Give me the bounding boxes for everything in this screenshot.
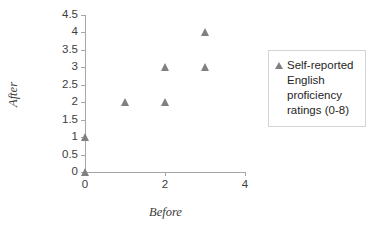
y-tick-label: 0.5 [46, 149, 78, 160]
y-tick-label: 4 [46, 26, 78, 37]
data-point-marker[interactable] [201, 28, 209, 36]
x-tick-label: 0 [70, 178, 100, 190]
data-point-marker[interactable] [121, 98, 129, 106]
y-tick-label: 2.5 [46, 79, 78, 90]
y-tick-label: 0 [46, 166, 78, 177]
plot-area [85, 15, 245, 172]
y-axis-title: After [6, 82, 21, 107]
x-tick-mark [245, 172, 246, 176]
data-point-marker[interactable] [161, 63, 169, 71]
data-point-marker[interactable] [201, 63, 209, 71]
x-axis-title: Before [85, 205, 246, 220]
y-tick-label: 3 [46, 61, 78, 72]
legend-item-label: Self-reported English proficiency rating… [287, 58, 359, 118]
y-tick-label: 1 [46, 131, 78, 142]
data-point-marker[interactable] [81, 133, 89, 141]
y-tick-label-group: 00.511.522.533.544.5 [44, 0, 78, 239]
scatter-chart: 00.511.522.533.544.5 024 After Before Se… [0, 0, 387, 239]
triangle-marker-icon [275, 62, 283, 69]
y-tick-label: 1.5 [46, 114, 78, 125]
x-tick-mark [165, 172, 166, 176]
data-point-marker[interactable] [81, 168, 89, 176]
y-tick-label: 2 [46, 96, 78, 107]
y-tick-label: 4.5 [46, 9, 78, 20]
legend-item[interactable]: Self-reported English proficiency rating… [275, 58, 359, 118]
x-tick-label: 4 [230, 178, 260, 190]
data-point-marker[interactable] [161, 98, 169, 106]
y-tick-label: 3.5 [46, 44, 78, 55]
chart-legend: Self-reported English proficiency rating… [268, 50, 366, 127]
x-tick-label: 2 [150, 178, 180, 190]
